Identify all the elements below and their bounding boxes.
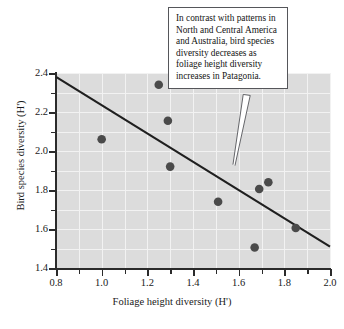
x-axis-tick [284,269,286,276]
y-axis-tick [49,268,55,270]
plot-area [56,73,330,268]
y-axis-label: Bird species diversity (H') [15,56,26,256]
gridlines [56,73,330,268]
y-axis-tick-label: 1.4 [35,262,48,273]
x-axis-tick-label: 1.2 [132,277,162,288]
y-axis-minor-tick [51,210,55,212]
x-axis-minor-tick [216,269,218,274]
gridline-horizontal [56,151,330,152]
x-axis-tick [147,269,149,276]
gridline-horizontal [56,112,330,113]
gridline-horizontal [56,249,330,250]
gridline-horizontal [56,229,330,230]
x-axis-minor-tick [262,269,264,274]
y-axis-tick [49,190,55,192]
y-axis-tick-label: 2.0 [35,145,48,156]
y-axis-tick [49,73,55,75]
y-axis-minor-tick [51,249,55,251]
x-axis-minor-tick [125,269,127,274]
x-axis-tick-label: 2.0 [315,277,344,288]
y-axis-tick-label: 1.8 [35,184,48,195]
gridline-horizontal [56,93,330,94]
y-axis-tick [49,151,55,153]
annotation-text: In contrast with patterns in North and C… [176,13,281,83]
y-axis-tick-label: 2.2 [35,106,48,117]
x-axis-minor-tick [170,269,172,274]
x-axis-tick [102,269,104,276]
y-axis-minor-tick [51,171,55,173]
y-axis-tick [49,112,55,114]
x-axis-tick [193,269,195,276]
gridline-horizontal [56,171,330,172]
y-axis-line [55,72,57,269]
x-axis-minor-tick [79,269,81,274]
y-axis-tick-label: 1.6 [35,223,48,234]
x-axis-tick-label: 0.8 [41,277,71,288]
x-axis-tick-label: 1.0 [87,277,117,288]
annotation-callout: In contrast with patterns in North and C… [168,7,288,89]
x-axis-tick [239,269,241,276]
gridline-horizontal [56,190,330,191]
x-axis-label: Foliage height diversity (H') [0,296,344,307]
x-axis-minor-tick [307,269,309,274]
scatter-plot-figure: 1.41.61.82.02.22.40.81.01.21.41.61.82.0 … [0,0,344,329]
x-axis-tick-label: 1.6 [224,277,254,288]
y-axis-tick [49,229,55,231]
x-axis-tick-label: 1.4 [178,277,208,288]
gridline-horizontal [56,210,330,211]
x-axis-tick [330,269,332,276]
y-axis-minor-tick [51,132,55,134]
x-axis-tick [56,269,58,276]
gridline-horizontal [56,132,330,133]
y-axis-tick-label: 2.4 [35,67,48,78]
gridline-vertical [330,73,331,268]
x-axis-tick-label: 1.8 [269,277,299,288]
y-axis-minor-tick [51,93,55,95]
